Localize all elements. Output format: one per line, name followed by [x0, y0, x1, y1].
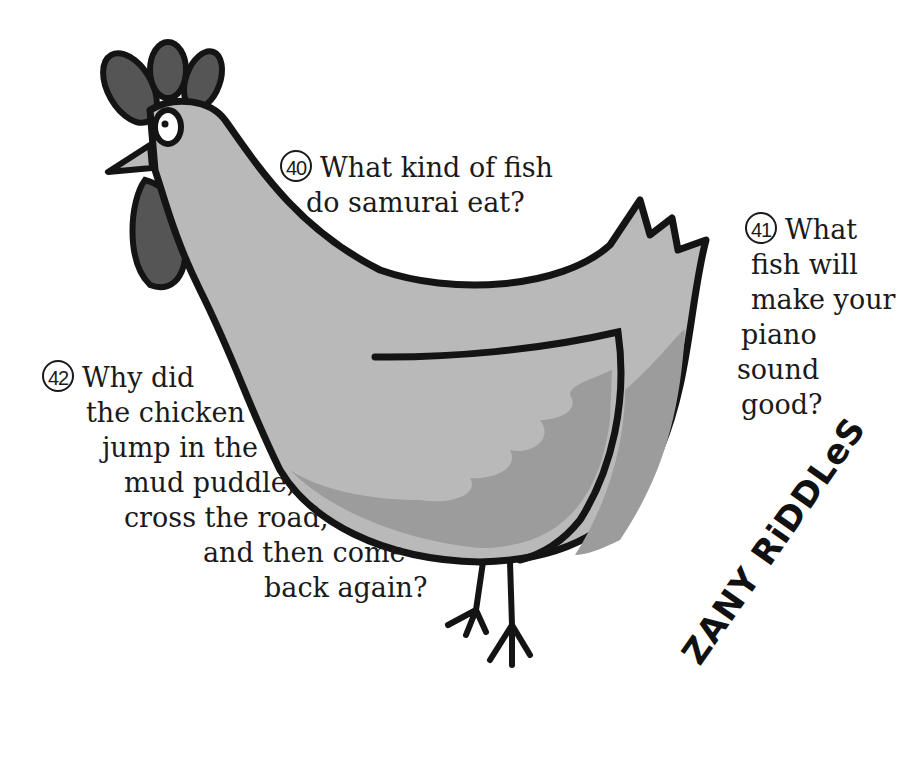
riddle-text-line: piano: [737, 317, 895, 352]
riddle-text-line: cross the road,: [42, 500, 427, 535]
riddle-text-line: make your: [737, 282, 895, 317]
riddle-text-line: do samurai eat?: [280, 185, 553, 220]
riddle-number-badge: 41: [745, 212, 777, 244]
eye-icon: [155, 110, 181, 144]
riddle-text-line: What kind of fish: [320, 152, 553, 183]
riddle-text-line: mud puddle,: [42, 465, 427, 500]
riddle-number-badge: 40: [280, 150, 312, 182]
riddle-41: 41What fish will make your piano sound g…: [737, 212, 895, 422]
riddle-text-line: good?: [737, 387, 895, 422]
riddle-text-line: fish will: [737, 247, 895, 282]
riddle-text-line: the chicken: [42, 395, 427, 430]
riddle-text-line: and then come: [42, 535, 427, 570]
riddle-text-line: sound: [737, 352, 895, 387]
riddle-text-line: jump in the: [42, 430, 427, 465]
riddle-40: 40What kind of fish do samurai eat?: [280, 150, 553, 220]
beak-icon: [108, 145, 152, 172]
riddle-text-line: What: [785, 214, 857, 245]
riddle-42: 42Why did the chicken jump in the mud pu…: [42, 360, 427, 605]
riddle-text-line: back again?: [42, 570, 427, 605]
riddle-number-badge: 42: [42, 360, 74, 392]
legs-icon: [448, 562, 530, 665]
riddle-text-line: Why did: [82, 362, 194, 393]
